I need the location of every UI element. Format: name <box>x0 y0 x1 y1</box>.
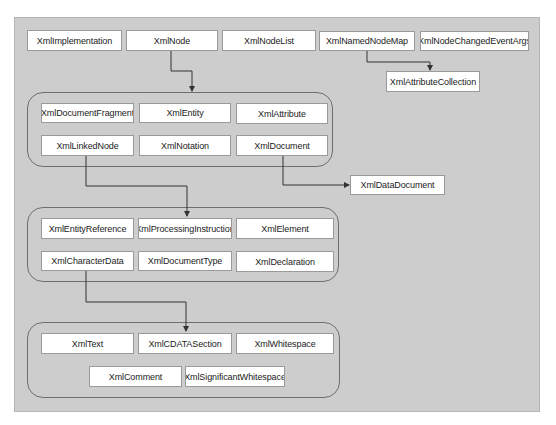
node-xml-entity-reference: XmlEntityReference <box>41 218 134 239</box>
node-xml-declaration: XmlDeclaration <box>236 251 334 272</box>
node-xml-text: XmlText <box>41 333 134 354</box>
node-xml-node: XmlNode <box>126 30 218 51</box>
node-xml-document: XmlDocument <box>236 135 328 156</box>
node-xml-whitespace: XmlWhitespace <box>236 333 334 354</box>
node-xml-node-list: XmlNodeList <box>222 30 316 51</box>
node-xml-notation: XmlNotation <box>139 135 231 156</box>
node-xml-node-changed-event-args: XmlNodeChangedEventArgs <box>420 31 529 51</box>
node-xml-processing-instruction: XmlProcessingInstruction <box>138 218 232 239</box>
node-xml-significant-whitespace: XmlSignificantWhitespace <box>185 366 285 387</box>
node-xml-comment: XmlComment <box>89 366 182 387</box>
node-xml-character-data: XmlCharacterData <box>41 251 134 271</box>
node-xml-attribute-collection: XmlAttributeCollection <box>386 71 480 92</box>
node-xml-entity: XmlEntity <box>139 103 231 123</box>
node-xml-cdata-section: XmlCDATASection <box>138 333 232 354</box>
node-xml-implementation: XmlImplementation <box>27 30 122 51</box>
node-xml-linked-node: XmlLinkedNode <box>41 135 134 156</box>
node-xml-attribute: XmlAttribute <box>236 103 328 124</box>
node-xml-element: XmlElement <box>236 218 334 239</box>
node-xml-named-node-map: XmlNamedNodeMap <box>319 31 415 51</box>
node-xml-document-type: XmlDocumentType <box>138 251 232 271</box>
node-xml-document-fragment: XmlDocumentFragment <box>41 103 134 123</box>
node-xml-data-document: XmlDataDocument <box>350 175 445 195</box>
